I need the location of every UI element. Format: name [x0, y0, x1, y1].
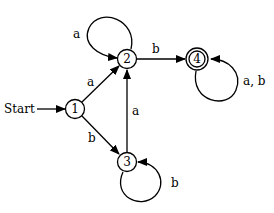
- state-label: 3: [123, 155, 131, 169]
- state-1: 1: [66, 100, 85, 119]
- edge-label: a, b: [243, 74, 266, 88]
- edge-label: b: [152, 42, 160, 56]
- edge-3-2: a: [127, 70, 139, 152]
- edge-label: a: [73, 27, 80, 41]
- edge-label: a: [132, 104, 139, 118]
- edge-1-3: b: [82, 116, 119, 154]
- state-label: 4: [193, 52, 201, 66]
- edge-2-4: b: [137, 42, 185, 59]
- automaton-diagram: Start a b a b a b a, b 1 2: [0, 0, 274, 213]
- start-arrow: Start: [4, 102, 65, 116]
- state-4-accepting: 4: [186, 48, 208, 70]
- start-label: Start: [4, 102, 35, 116]
- edge-1-2: a: [82, 66, 119, 102]
- state-3: 3: [118, 153, 137, 172]
- state-label: 2: [123, 52, 131, 66]
- edge-label: b: [171, 176, 179, 190]
- state-label: 1: [71, 102, 79, 116]
- state-2: 2: [118, 50, 137, 69]
- edge-label: a: [87, 75, 94, 89]
- edge-label: b: [88, 131, 96, 145]
